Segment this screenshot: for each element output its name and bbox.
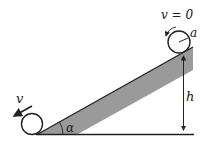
top-velocity-label: v = 0	[161, 8, 193, 22]
angle-label: α	[66, 121, 74, 135]
radius-label: a	[190, 26, 197, 40]
bottom-velocity-label: v	[16, 91, 24, 106]
height-label: h	[186, 89, 194, 104]
bottom-cylinder	[22, 114, 43, 135]
rolling-cylinder-incline-diagram: α a v = 0 h v	[0, 0, 209, 147]
incline-surface	[38, 47, 193, 134]
